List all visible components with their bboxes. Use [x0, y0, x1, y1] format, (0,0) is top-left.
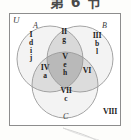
figure-title: 第 6 节	[50, 0, 103, 11]
title-strip: 第 6 节	[0, 0, 131, 11]
set-label-B: B	[102, 21, 107, 30]
region-VII: VII c	[58, 87, 74, 103]
set-label-C: C	[63, 112, 68, 121]
region-VI-numeral: VI	[80, 67, 94, 75]
figure-canvas: 第 6 节 U	[0, 0, 131, 140]
region-III: III b l	[89, 32, 105, 55]
region-II-member-g: g	[57, 36, 71, 44]
region-IV: IV a	[37, 64, 53, 80]
region-IV-member-a: a	[37, 72, 53, 80]
region-VIII: VIII	[101, 108, 119, 116]
region-VI: VI	[80, 67, 94, 75]
region-II: II g	[57, 28, 71, 44]
region-VII-member-c: c	[58, 95, 74, 103]
region-V: V e h	[58, 53, 72, 76]
set-label-A: A	[33, 21, 38, 30]
region-I: I d i j	[24, 31, 38, 62]
region-V-member-h: h	[58, 69, 72, 77]
region-I-member-j: j	[24, 54, 38, 62]
region-VIII-numeral: VIII	[101, 108, 119, 116]
region-III-member-l: l	[89, 48, 105, 56]
